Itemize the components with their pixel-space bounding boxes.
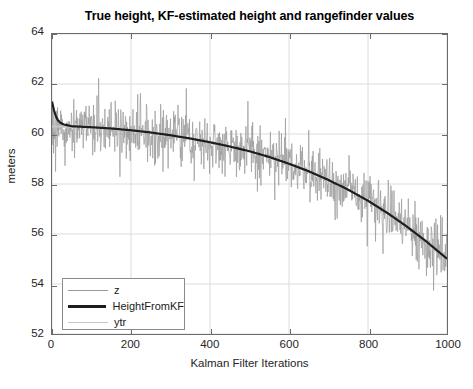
legend-line-icon-heightfromkf (68, 300, 106, 312)
y-tick (52, 135, 57, 136)
chart-title: True height, KF-estimated height and ran… (51, 9, 448, 23)
y-tick-right (442, 286, 447, 287)
y-tick (52, 235, 57, 236)
x-tick (52, 329, 53, 334)
legend-label-heightfromkf: HeightFromKF (112, 300, 184, 312)
x-tick-label: 400 (188, 338, 232, 350)
y-tick (52, 185, 57, 186)
x-tick (211, 329, 212, 334)
y-tick-right (442, 235, 447, 236)
y-tick-right (442, 185, 447, 186)
legend-label-z: z (114, 284, 120, 296)
x-tick-top (370, 34, 371, 39)
y-tick-label: 64 (4, 25, 44, 37)
x-tick-top (290, 34, 291, 39)
legend-line-icon-ytr (68, 316, 108, 328)
x-tick-label: 800 (347, 338, 391, 350)
y-axis-label: meters (5, 131, 17, 201)
x-tick-label: 1000 (426, 338, 470, 350)
x-tick (290, 329, 291, 334)
y-tick (52, 84, 57, 85)
y-tick (52, 34, 57, 35)
x-axis-label: Kalman Filter Iterations (51, 357, 448, 369)
legend-item-z[interactable]: z (63, 282, 184, 298)
y-tick-label: 52 (4, 327, 44, 339)
y-tick-label: 56 (4, 226, 44, 238)
x-tick-label: 0 (29, 338, 73, 350)
legend-item-ytr[interactable]: ytr (63, 314, 184, 330)
x-tick (370, 329, 371, 334)
x-tick-top (131, 34, 132, 39)
y-tick-label: 62 (4, 75, 44, 87)
x-tick-top (211, 34, 212, 39)
y-tick (52, 286, 57, 287)
legend-line-icon-z (68, 284, 108, 296)
figure: True height, KF-estimated height and ran… (0, 0, 473, 389)
y-tick-right (442, 34, 447, 35)
x-tick-label: 600 (267, 338, 311, 350)
x-tick-label: 200 (108, 338, 152, 350)
y-tick-label: 54 (4, 277, 44, 289)
legend-item-heightfromkf[interactable]: HeightFromKF (63, 298, 184, 314)
y-tick-right (442, 135, 447, 136)
y-tick-right (442, 84, 447, 85)
series-z (52, 78, 447, 290)
legend-label-ytr: ytr (114, 316, 126, 328)
legend[interactable]: z HeightFromKF ytr (62, 278, 185, 330)
